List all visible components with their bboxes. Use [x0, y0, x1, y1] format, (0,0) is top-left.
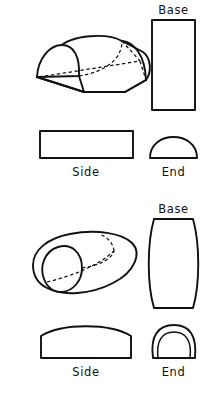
- ovoid-near-end-face: [42, 246, 82, 292]
- near-end-face: [37, 45, 79, 77]
- figure-root: Base Side End: [0, 0, 216, 394]
- lower-end-inner-arch: [158, 332, 191, 358]
- pictorial-half-cylinder: [37, 36, 150, 92]
- pictorial-ovoid-loaf: [33, 232, 136, 293]
- upper-side-label: Side: [72, 165, 99, 179]
- lower-group: Base Side End: [33, 202, 198, 379]
- lower-side-view: Side: [41, 326, 131, 379]
- lower-base-view: Base: [149, 202, 199, 308]
- upper-end-semicircle: [150, 137, 197, 158]
- lower-base-label: Base: [158, 202, 188, 216]
- lower-side-domed-rect: [41, 326, 131, 358]
- upper-side-rectangle: [40, 131, 133, 158]
- upper-side-view: Side: [40, 131, 133, 179]
- lower-side-label: Side: [72, 365, 99, 379]
- upper-end-view: End: [150, 137, 197, 179]
- upper-base-label: Base: [158, 3, 188, 17]
- lower-end-label: End: [162, 365, 186, 379]
- upper-group: Base Side End: [37, 3, 197, 179]
- lower-end-view: End: [152, 325, 195, 379]
- upper-base-rectangle: [152, 20, 195, 110]
- lower-base-barrel: [149, 219, 199, 308]
- technical-drawing-canvas: Base Side End: [0, 0, 216, 394]
- upper-end-label: End: [162, 165, 186, 179]
- upper-base-view: Base: [152, 3, 195, 110]
